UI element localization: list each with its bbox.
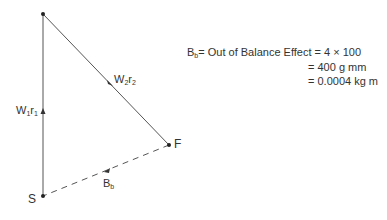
- w1r1-sub2: 1: [34, 110, 38, 117]
- equation-line2: = 400 g mm: [308, 62, 366, 73]
- vector-w2r2-line: [43, 14, 169, 145]
- label-w1r1: W1r1: [16, 105, 38, 117]
- arrow-up-icon: [41, 108, 46, 114]
- vertex-f: [167, 143, 171, 147]
- label-w2r2: W2r2: [114, 74, 136, 86]
- vertex-top: [41, 12, 45, 16]
- equation-line3: = 0.0004 kg m: [308, 76, 378, 87]
- label-bb: Bb: [103, 178, 114, 190]
- eq-line1-text: = Out of Balance Effect = 4 × 100: [198, 46, 361, 58]
- label-s: S: [28, 193, 36, 205]
- equation-line1: Bb= Out of Balance Effect = 4 × 100: [187, 47, 361, 59]
- w2r2-base: W: [114, 73, 124, 85]
- vector-diagram: [0, 0, 387, 220]
- bb-sub: b: [110, 183, 114, 190]
- label-f: F: [174, 138, 181, 150]
- w1r1-base: W: [16, 104, 26, 116]
- vertex-s: [41, 194, 45, 198]
- w2r2-sub2: 2: [132, 79, 136, 86]
- arrow-down-right-icon: [107, 80, 113, 86]
